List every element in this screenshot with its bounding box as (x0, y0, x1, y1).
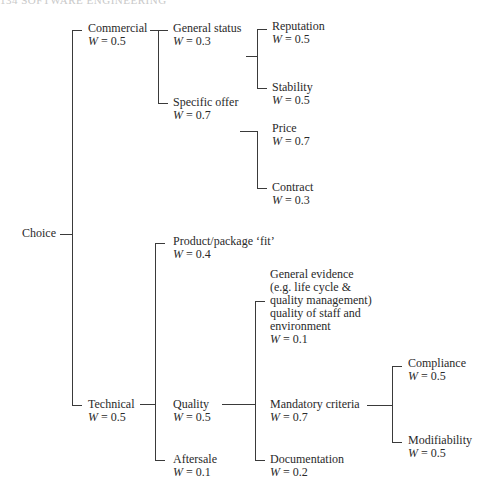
connector (392, 366, 402, 367)
node-technical: Technical W = 0.5 (88, 398, 134, 424)
connector (257, 29, 258, 89)
node-price: Price W = 0.7 (272, 122, 310, 148)
node-specific-offer: Specific offer W = 0.7 (173, 96, 238, 122)
connector (257, 188, 267, 189)
connector (158, 30, 168, 31)
connector (392, 366, 393, 443)
node-weight: W = 0.7 (272, 135, 310, 148)
connector (255, 301, 256, 461)
node-weight: W = 0.5 (408, 447, 472, 460)
node-weight: W = 0.3 (272, 194, 313, 207)
node-commercial: Commercial W = 0.5 (88, 22, 147, 48)
node-weight: W = 0.5 (88, 35, 147, 48)
connector (140, 404, 156, 405)
connector (255, 301, 265, 302)
page-header: 134 SOFTWARE ENGINEERING (0, 0, 167, 6)
node-contract: Contract W = 0.3 (272, 181, 313, 207)
connector (392, 442, 402, 443)
connector (72, 405, 82, 406)
connector (158, 103, 168, 104)
node-weight: W = 0.1 (173, 466, 217, 479)
connector (222, 404, 256, 405)
connector (72, 30, 82, 31)
node-weight: W = 0.5 (88, 411, 134, 424)
connector (155, 460, 165, 461)
node-weight: W = 0.7 (173, 109, 238, 122)
node-documentation: Documentation W = 0.2 (270, 453, 344, 479)
node-weight: W = 0.1 (270, 333, 372, 346)
node-stability: Stability W = 0.5 (272, 81, 313, 107)
node-modifiability: Modifiability W = 0.5 (408, 434, 472, 460)
node-aftersale: Aftersale W = 0.1 (173, 453, 217, 479)
node-mandatory-criteria: Mandatory criteria W = 0.7 (270, 398, 360, 424)
node-weight: W = 0.4 (173, 248, 275, 261)
node-weight: W = 0.5 (173, 411, 211, 424)
node-weight: W = 0.7 (270, 411, 360, 424)
node-product-fit: Product/package ‘fit’ W = 0.4 (173, 235, 275, 261)
connector (155, 243, 156, 461)
node-reputation: Reputation W = 0.5 (272, 20, 325, 46)
connector (257, 29, 267, 30)
node-general-evidence: General evidence (e.g. life cycle & qual… (270, 268, 372, 346)
node-general-status: General status W = 0.3 (173, 22, 241, 48)
node-quality: Quality W = 0.5 (173, 398, 211, 424)
connector (257, 131, 258, 189)
node-weight: W = 0.3 (173, 35, 241, 48)
node-compliance: Compliance W = 0.5 (408, 357, 466, 383)
node-label: Choice (22, 226, 56, 240)
node-weight: W = 0.5 (272, 33, 325, 46)
connector (240, 131, 258, 132)
connector (158, 30, 159, 104)
node-weight: W = 0.2 (270, 466, 344, 479)
connector (72, 30, 73, 406)
connector (155, 243, 165, 244)
node-weight: W = 0.5 (408, 370, 466, 383)
node-weight: W = 0.5 (272, 94, 313, 107)
connector (367, 405, 393, 406)
connector (255, 460, 265, 461)
connector (257, 88, 267, 89)
node-choice: Choice (22, 227, 56, 240)
